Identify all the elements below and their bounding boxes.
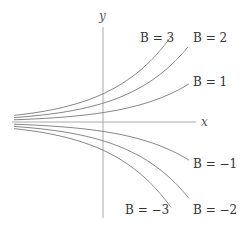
curve-line	[14, 124, 189, 160]
x-axis-label: x	[201, 115, 208, 129]
curve-line	[14, 84, 189, 120]
curve-line	[14, 129, 171, 208]
curve-line	[14, 37, 171, 116]
curve-label: B = 2	[193, 31, 227, 45]
chart: x y B = 3B = 2B = 1B = −1B = −2B = −3	[0, 0, 246, 232]
curve-line	[14, 126, 189, 198]
curve-label: B = −1	[193, 157, 237, 171]
curve-label: B = −2	[193, 203, 237, 217]
plot-area: x y B = 3B = 2B = 1B = −1B = −2B = −3	[0, 0, 246, 232]
curve-label: B = −3	[125, 203, 169, 217]
y-axis-label: y	[98, 9, 106, 23]
curve-label: B = 1	[193, 75, 227, 89]
curve-label: B = 3	[140, 31, 174, 45]
curve-line	[14, 47, 188, 118]
